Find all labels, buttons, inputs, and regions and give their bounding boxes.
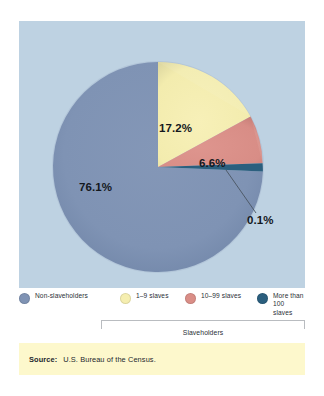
- legend-label-more-than-100-slaves: More than 100 slaves: [273, 292, 305, 317]
- source-band: Source:U.S. Bureau of the Census.: [19, 343, 305, 375]
- legend-item-non-slaveholders: Non-slaveholders: [19, 292, 88, 304]
- figure-root: 76.1% 17.2% 6.6% 0.1% Non-slaveholders 1…: [0, 0, 324, 396]
- legend-item-1-9-slaves: 1–9 slaves: [120, 292, 169, 304]
- source-text: U.S. Bureau of the Census.: [63, 355, 156, 364]
- source-line: Source:U.S. Bureau of the Census.: [29, 355, 156, 364]
- legend-label-1-9-slaves: 1–9 slaves: [136, 292, 169, 300]
- legend-swatch-icon-non-slaveholders: [19, 293, 30, 304]
- legend-label-non-slaveholders: Non-slaveholders: [35, 292, 88, 300]
- slice-label-more-than-100-slaves: 0.1%: [247, 214, 274, 226]
- legend-label-10-99-slaves: 10–99 slaves: [201, 292, 241, 300]
- chart-panel: 76.1% 17.2% 6.6% 0.1%: [19, 21, 305, 288]
- legend-swatch-icon-1-9-slaves: [120, 293, 131, 304]
- legend-swatch-icon-more-than-100-slaves: [257, 293, 268, 304]
- pie-chart: 76.1% 17.2% 6.6% 0.1%: [19, 21, 305, 288]
- legend-item-more-than-100-slaves: More than 100 slaves: [257, 292, 305, 317]
- legend-swatch-icon-10-99-slaves: [185, 293, 196, 304]
- slaveholders-bracket-label: Slaveholders: [101, 329, 305, 336]
- slice-label-non-slaveholders: 76.1%: [79, 181, 112, 193]
- slice-label-1-9-slaves: 17.2%: [159, 122, 192, 134]
- slaveholders-bracket: [101, 320, 305, 329]
- source-label: Source:: [29, 355, 57, 364]
- slice-label-10-99-slaves: 6.6%: [199, 157, 226, 169]
- legend-item-10-99-slaves: 10–99 slaves: [185, 292, 241, 304]
- pie-svg: [19, 21, 305, 288]
